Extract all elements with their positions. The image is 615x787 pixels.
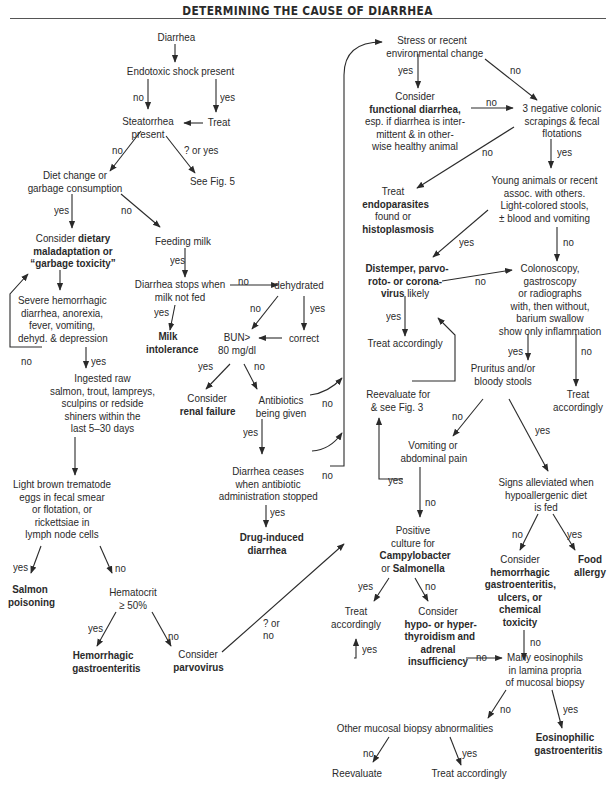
label-no: no xyxy=(254,360,265,372)
label-yes: yes xyxy=(362,643,377,655)
node-consider-dietary: Consider dietary maladaptation or “garba… xyxy=(25,232,122,270)
label-no: no xyxy=(510,64,521,76)
label-yes: yes xyxy=(91,355,106,367)
label-no: no xyxy=(475,275,486,287)
label-yes: yes xyxy=(358,580,373,592)
node-see-fig5: See Fig. 5 xyxy=(190,175,234,188)
node-endotoxic-shock: Endotoxic shock present xyxy=(126,65,236,78)
node-eosinophilic-gastroenteritis: Eosinophilicgastroenteritis xyxy=(534,731,596,756)
node-treat: Treat xyxy=(206,116,232,129)
label-no: no xyxy=(322,469,333,481)
node-antibiotics: Antibioticsbeing given xyxy=(254,394,309,419)
label-no: no xyxy=(250,302,261,314)
node-vomiting: Vomiting orabdominal pain xyxy=(400,439,465,464)
node-treat-accordingly-1: Treat accordingly xyxy=(365,337,444,350)
label-no: no xyxy=(133,91,144,103)
label-no: no xyxy=(112,144,123,156)
label-yes: yes xyxy=(398,64,413,76)
node-drug-induced: Drug-induceddiarrhea xyxy=(240,531,295,556)
label-no: no xyxy=(486,96,497,108)
node-positive-culture: Positiveculture for Campylobacteror Salm… xyxy=(380,524,447,574)
node-treat-accordingly-4: Treat accordingly xyxy=(429,767,508,780)
label-yes: yes xyxy=(220,91,235,103)
node-bun: BUN>80 mg/dl xyxy=(215,331,259,356)
label-yes: yes xyxy=(462,747,477,759)
node-endoparasites: Treatendoparasites found orhistoplasmosi… xyxy=(362,185,424,235)
node-stress: Stress or recentenvironmental change xyxy=(386,34,478,59)
node-reevaluate: Reevaluate xyxy=(331,767,382,780)
node-trematode: Light brown trematodeeggs in fecal smear… xyxy=(13,478,112,541)
node-young-animals: Young animals or recentassoc. with other… xyxy=(490,174,600,224)
node-steatorrhea: Steatorrheapresent xyxy=(122,115,175,140)
label-yes: yes xyxy=(310,302,325,314)
node-distemper: Distemper, parvo-roto- or corona- virus … xyxy=(365,262,444,300)
node-consider-parvovirus: Considerparvovirus xyxy=(173,648,222,673)
node-salmon-poisoning: Salmonpoisoning xyxy=(8,583,52,608)
label-yes: yes xyxy=(388,474,403,486)
node-signs-alleviated: Signs alleviated whenhypoallergenic diet… xyxy=(497,476,596,514)
node-diarrhea: Diarrhea xyxy=(158,31,195,44)
label-no: no xyxy=(425,496,436,508)
label-q-or-yes: ? or yes xyxy=(184,144,218,156)
label-yes: yes xyxy=(563,703,578,715)
label-no: no xyxy=(500,703,511,715)
label-yes: yes xyxy=(154,306,169,318)
label-no: no xyxy=(168,630,179,642)
label-no: no xyxy=(238,275,249,287)
label-yes: yes xyxy=(88,622,103,634)
label-no: no xyxy=(21,355,32,367)
node-ingested-raw: Ingested rawsalmon, trout, lampreys,scul… xyxy=(48,372,158,435)
node-hemorrhagic-gastroenteritis: Hemorrhagicgastroenteritis xyxy=(72,649,134,674)
label-no: no xyxy=(476,651,487,663)
label-yes: yes xyxy=(198,360,213,372)
label-no: no xyxy=(482,146,493,158)
label-yes: yes xyxy=(508,345,523,357)
label-no: no xyxy=(452,410,463,422)
node-feeding-milk: Feeding milk xyxy=(152,235,214,248)
node-correct: correct xyxy=(286,332,321,345)
node-diet-change: Diet change orgarbage consumption xyxy=(27,169,124,194)
node-stops-milk: Diarrhea stops whenmilk not fed xyxy=(132,278,229,303)
node-consider-hemorrhagic: Consider hemorrhagicgastroenteritis, ulc… xyxy=(485,553,555,628)
node-negative-scrapings: 3 negative colonicscrapings & fecalflota… xyxy=(520,102,604,140)
label-yes: yes xyxy=(270,506,285,518)
label-no: no xyxy=(563,236,574,248)
node-many-eosinophils: Many eosinophilsin lamina propriaof muco… xyxy=(505,651,584,689)
label-no: no xyxy=(512,528,523,540)
node-reevaluate-fig3: Reevaluate for& see Fig. 3 xyxy=(366,388,428,413)
label-no: no xyxy=(581,345,592,357)
node-treat-accordingly-3: Treataccordingly xyxy=(330,605,383,630)
node-milk-intolerance: Milkintolerance xyxy=(146,330,190,355)
node-hematocrit: Hematocrit≥ 50% xyxy=(108,586,157,611)
label-q-no: no xyxy=(263,629,274,641)
label-yes: yes xyxy=(386,310,401,322)
label-no: no xyxy=(530,636,541,648)
label-yes: yes xyxy=(557,146,572,158)
node-consider-thyroid: Consider hypo- or hyper-thyroidism and a… xyxy=(405,605,472,668)
node-treat-accordingly-2: Treataccordingly xyxy=(552,388,605,413)
label-yes: yes xyxy=(13,561,28,573)
node-dehydrated: dehydrated xyxy=(272,279,327,292)
node-renal-failure: Considerrenal failure xyxy=(180,392,235,417)
label-no: no xyxy=(363,747,374,759)
node-diarrhea-ceases: Diarrhea ceaseswhen antibioticadministra… xyxy=(219,465,318,503)
label-yes: yes xyxy=(243,426,258,438)
label-no: no xyxy=(115,562,126,574)
node-pruritus: Pruritus and/orbloody stools xyxy=(468,362,538,387)
label-yes: yes xyxy=(567,528,582,540)
node-food-allergy: Foodallergy xyxy=(571,553,610,578)
label-yes: yes xyxy=(54,204,69,216)
label-yes: yes xyxy=(459,236,474,248)
node-other-mucosal: Other mucosal biopsy abnormalities xyxy=(336,722,494,735)
label-q-or: ? or xyxy=(263,617,280,629)
node-functional-diarrhea: Considerfunctional diarrhea, esp. if dia… xyxy=(363,90,467,153)
label-no: no xyxy=(121,204,132,216)
label-no: no xyxy=(322,397,333,409)
label-no: no xyxy=(425,580,436,592)
node-severe-hemorrhagic: Severe hemorrhagicdiarrhea, anorexia,fev… xyxy=(18,294,106,344)
label-yes: yes xyxy=(170,254,185,266)
node-colonoscopy: Colonoscopy,gastroscopyor radiographs wi… xyxy=(497,262,603,337)
label-yes: yes xyxy=(535,424,550,436)
